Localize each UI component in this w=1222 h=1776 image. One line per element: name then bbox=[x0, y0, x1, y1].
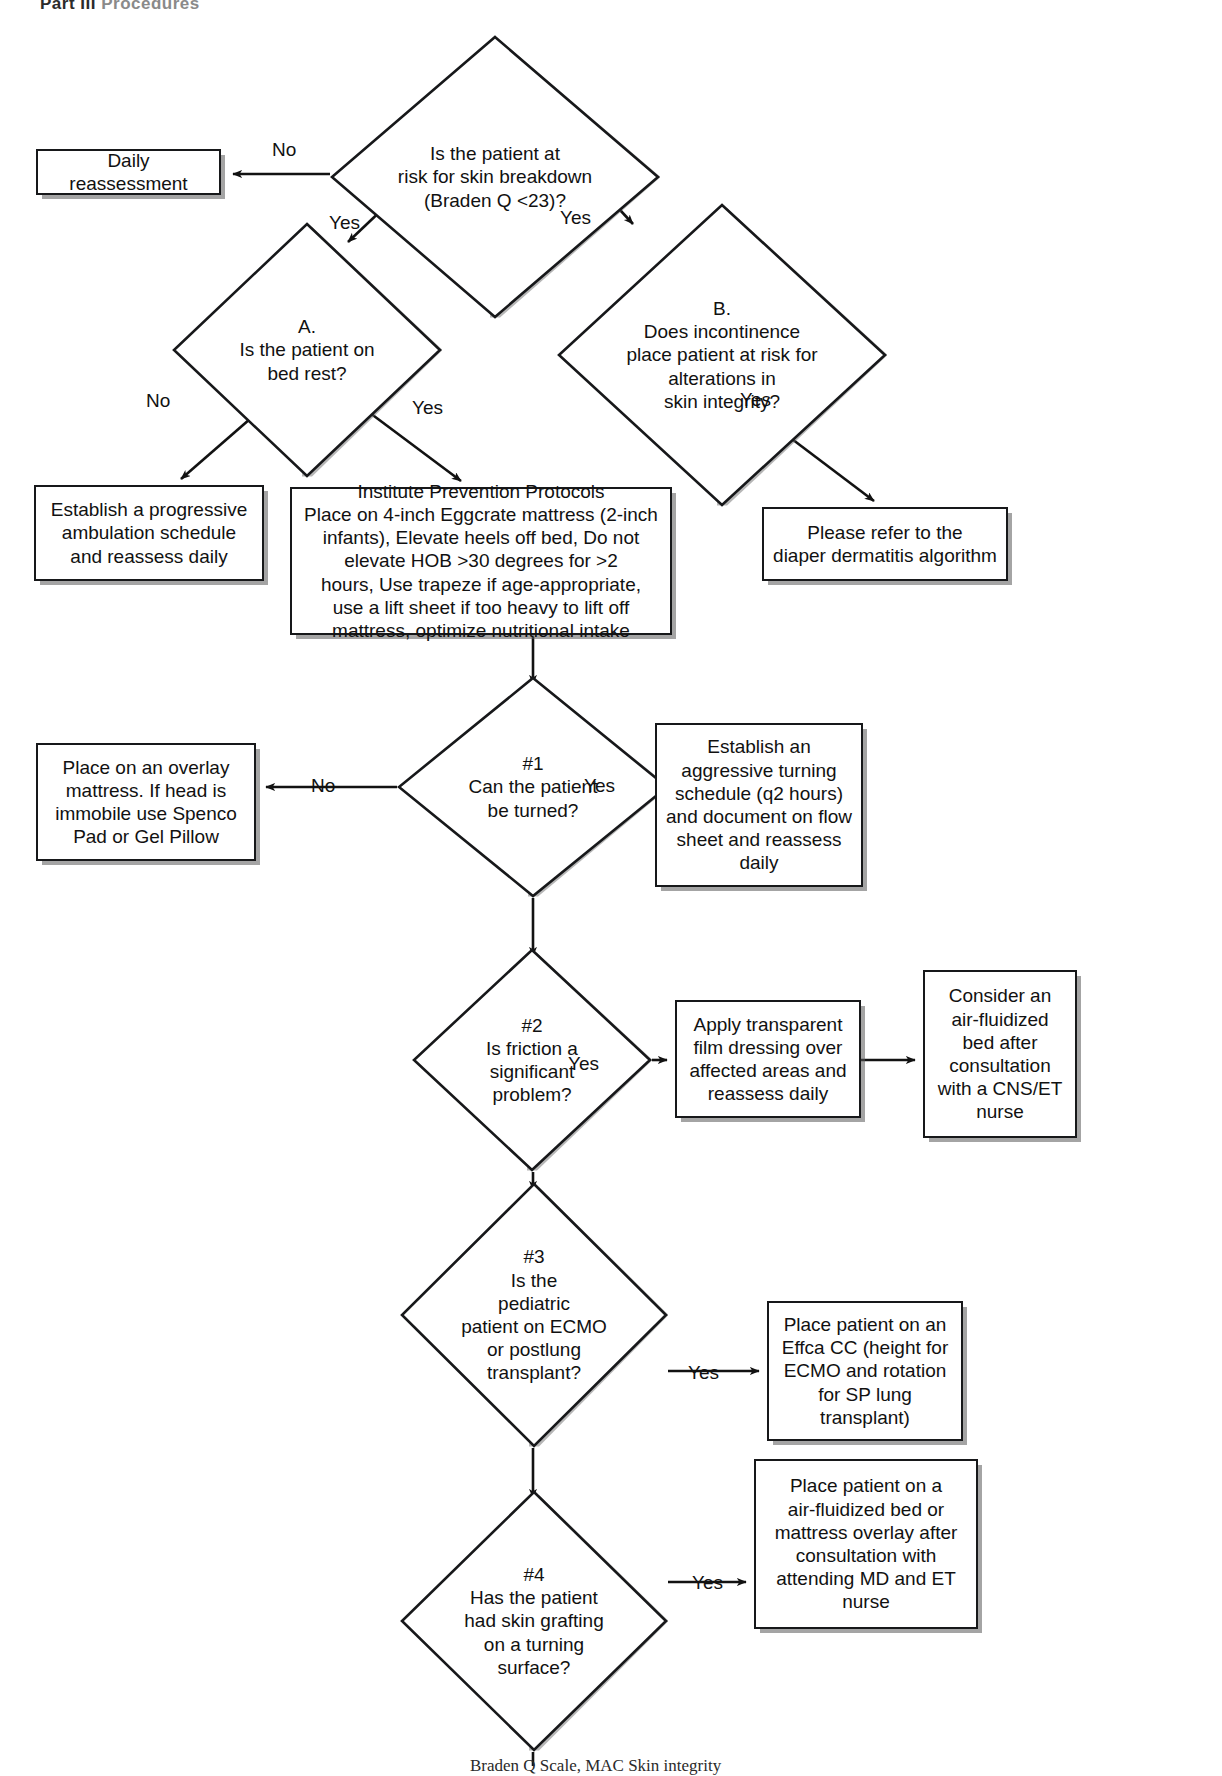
node-label: Establish an aggressive turning schedule… bbox=[665, 735, 853, 874]
node-effca-cc-box: Place patient on an Effca CC (height for… bbox=[767, 1301, 963, 1441]
page-header-part: Part III bbox=[40, 0, 96, 13]
edge-label-lbl-risk-yes-left: Yes bbox=[329, 213, 360, 232]
node-label: Please refer to the diaper dermatitis al… bbox=[772, 521, 998, 567]
edge-label-lbl-ecmo-yes: Yes bbox=[688, 1363, 719, 1382]
node-label: Apply transparent film dressing over aff… bbox=[685, 1013, 851, 1106]
edge-label-lbl-bedrest-no: No bbox=[146, 391, 170, 410]
node-ecmo-decision: #3 Is the pediatric patient on ECMO or p… bbox=[400, 1182, 668, 1448]
node-label: Place on an overlay mattress. If head is… bbox=[46, 756, 246, 849]
edge-label-lbl-graft-yes: Yes bbox=[692, 1573, 723, 1592]
node-turning-schedule-box: Establish an aggressive turning schedule… bbox=[655, 723, 863, 887]
edge-label-lbl-risk-no: No bbox=[272, 140, 296, 159]
node-air-fluidized-overlay-box: Place patient on a air-fluidized bed or … bbox=[754, 1459, 978, 1629]
node-label: Place patient on an Effca CC (height for… bbox=[777, 1313, 953, 1429]
node-friction-decision: #2 Is friction a significant problem? bbox=[412, 948, 652, 1172]
node-ambulation-box: Establish a progressive ambulation sched… bbox=[34, 485, 264, 581]
node-diaper-dermatitis-box: Please refer to the diaper dermatitis al… bbox=[762, 507, 1008, 581]
node-label: #3 Is the pediatric patient on ECMO or p… bbox=[457, 1245, 611, 1384]
node-label: #2 Is friction a significant problem? bbox=[482, 1014, 582, 1107]
node-film-dressing-box: Apply transparent film dressing over aff… bbox=[675, 1000, 861, 1118]
node-label: Institute Prevention Protocols Place on … bbox=[300, 480, 662, 642]
node-turn-decision: #1 Can the patient be turned? bbox=[397, 676, 669, 898]
node-daily-reassessment: Daily reassessment bbox=[36, 149, 221, 195]
page-header-sub: Procedures bbox=[101, 0, 200, 13]
node-label: #1 Can the patient be turned? bbox=[465, 752, 602, 822]
page-header: Part III Procedures bbox=[40, 0, 200, 14]
edge-label-lbl-turn-no: No bbox=[311, 776, 335, 795]
node-label: Consider an air-fluidized bed after cons… bbox=[933, 984, 1067, 1123]
node-label: #4 Has the patient had skin grafting on … bbox=[460, 1563, 607, 1679]
node-incontinence-decision: B. Does incontinence place patient at ri… bbox=[557, 203, 887, 507]
node-bedrest-decision: A. Is the patient on bed rest? bbox=[172, 222, 442, 478]
node-label: Place patient on a air-fluidized bed or … bbox=[764, 1474, 968, 1613]
node-air-fluidized-box: Consider an air-fluidized bed after cons… bbox=[923, 970, 1077, 1138]
node-label: Daily reassessment bbox=[46, 149, 211, 195]
node-prevention-protocol-box: Institute Prevention Protocols Place on … bbox=[290, 487, 672, 635]
node-label: Establish a progressive ambulation sched… bbox=[44, 498, 254, 568]
node-skin-graft-decision: #4 Has the patient had skin grafting on … bbox=[400, 1490, 668, 1752]
figure-caption: Braden Q Scale, MAC Skin integrity bbox=[470, 1756, 721, 1776]
node-label: B. Does incontinence place patient at ri… bbox=[622, 297, 821, 413]
node-label: Is the patient at risk for skin breakdow… bbox=[394, 142, 596, 212]
node-label: A. Is the patient on bed rest? bbox=[235, 315, 378, 385]
edge-label-lbl-bedrest-yes: Yes bbox=[412, 398, 443, 417]
node-overlay-mattress-box: Place on an overlay mattress. If head is… bbox=[36, 743, 256, 861]
